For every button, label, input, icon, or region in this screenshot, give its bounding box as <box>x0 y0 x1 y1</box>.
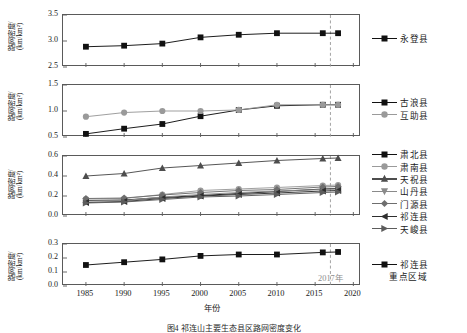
legend-marker-square-icon <box>372 258 397 270</box>
y-axis-title-line2: (km/km²) <box>16 238 24 294</box>
legend-item-肃北县[interactable]: 肃北县 <box>372 148 429 160</box>
y-axis-title-line1: 路网密度/ <box>8 91 16 121</box>
panel-2-y-tick-1: 1.0 <box>36 105 58 114</box>
x-tick-2000: 2000 <box>182 289 218 298</box>
y-axis-title-line1: 路网密度/ <box>8 169 16 199</box>
panel-1-y-axis-title: 路网密度/ (km/km²) <box>8 8 25 64</box>
panel-4-y-tick-3: 0.3 <box>36 238 58 247</box>
panel-2-y-tick-0: 0.5 <box>36 131 58 140</box>
y-axis-title-line2: (km/km²) <box>16 78 24 134</box>
panel-4-y-axis-title: 路网密度/ (km/km²) <box>8 238 25 294</box>
panel-3-y-tick-1: 0.2 <box>36 190 58 199</box>
legend-item-天祝县[interactable]: 天祝县 <box>372 173 429 185</box>
legend-label: 肃南县 <box>400 161 429 173</box>
legend-panel-2: 古浪县互助县 <box>372 96 429 121</box>
legend-marker-circle-icon <box>372 109 397 121</box>
panel-4-series-canvas <box>63 244 361 286</box>
y-axis-title-line2: (km/km²) <box>16 8 24 64</box>
legend-marker-square-icon <box>372 32 397 44</box>
panel-4-y-tick-2: 0.2 <box>36 252 58 261</box>
annotation-2017: 2017年 <box>318 271 343 283</box>
legend-marker-square-icon <box>372 96 397 108</box>
panel-1-plot-area <box>62 14 360 66</box>
y-axis-title-line2: (km/km²) <box>16 156 24 212</box>
x-tick-2015: 2015 <box>296 289 332 298</box>
x-tick-2005: 2005 <box>220 289 256 298</box>
panel-4-y-tick-1: 0.1 <box>36 266 58 275</box>
panel-2-plot-area <box>62 84 360 136</box>
legend-marker-triangle-down-icon <box>372 185 397 197</box>
x-tick-1990: 1990 <box>105 289 141 298</box>
legend-marker-triangle-left-icon <box>372 210 397 222</box>
x-tick-1985: 1985 <box>67 289 103 298</box>
legend-panel-3: 肃北县肃南县天祝县山丹县门源县祁连县天峻县 <box>372 148 429 235</box>
panel-3-plot-area <box>62 155 360 215</box>
legend-item-山丹县[interactable]: 山丹县 <box>372 185 429 197</box>
x-axis-title: 年份 <box>162 301 262 313</box>
panel-1-y-tick-0: 2.5 <box>36 61 58 70</box>
panel-3-y-tick-0: 0.0 <box>36 210 58 219</box>
x-tick-2010: 2010 <box>258 289 294 298</box>
panel-2-y-tick-2: 1.5 <box>36 79 58 88</box>
legend-label: 门源县 <box>400 198 429 210</box>
legend-item-门源县[interactable]: 门源县 <box>372 198 429 210</box>
legend-label: 祁连县 <box>400 210 429 222</box>
panel-2-series-canvas <box>63 85 361 137</box>
legend-label: 永登县 <box>400 32 429 44</box>
x-tick-2020: 2020 <box>334 289 370 298</box>
panel-1-y-tick-2: 3.5 <box>36 9 58 18</box>
y-axis-title-line1: 路网密度/ <box>8 21 16 51</box>
x-tick-1995: 1995 <box>143 289 179 298</box>
legend-item-天峻县[interactable]: 天峻县 <box>372 222 429 234</box>
legend-label: 天峻县 <box>400 223 429 235</box>
panel-3-y-axis-title: 路网密度/ (km/km²) <box>8 156 25 212</box>
legend-label: 肃北县 <box>400 148 429 160</box>
y-axis-title-line1: 路网密度/ <box>8 251 16 281</box>
panel-3-series-canvas <box>63 156 361 216</box>
legend-marker-diamond-icon <box>372 198 397 210</box>
panel-1-series-canvas <box>63 15 361 67</box>
legend-label: 祁连县 <box>400 258 429 270</box>
panel-3-y-tick-2: 0.4 <box>36 170 58 179</box>
legend-item-古浪县[interactable]: 古浪县 <box>372 96 429 108</box>
legend-marker-triangle-up-icon <box>372 173 397 185</box>
panel-4-plot-area <box>62 243 360 285</box>
legend-marker-circle-icon <box>372 161 397 173</box>
legend-item-永登县[interactable]: 永登县 <box>372 32 429 44</box>
legend-item-互助县[interactable]: 互助县 <box>372 108 429 120</box>
legend-sublabel: 重点区域 <box>389 270 429 282</box>
legend-item-祁连县[interactable]: 祁连县 <box>372 210 429 222</box>
panel-1-y-tick-1: 3.0 <box>36 35 58 44</box>
panel-2-y-axis-title: 路网密度/ (km/km²) <box>8 78 25 134</box>
legend-marker-triangle-right-icon <box>372 223 397 235</box>
legend-item-祁连县[interactable]: 祁连县 <box>372 258 429 270</box>
legend-panel-4: 祁连县重点区域 <box>372 258 429 282</box>
legend-item-肃南县[interactable]: 肃南县 <box>372 160 429 172</box>
panel-4-y-tick-0: 0.0 <box>36 280 58 289</box>
legend-label: 天祝县 <box>400 173 429 185</box>
legend-panel-1: 永登县 <box>372 32 429 44</box>
legend-label: 山丹县 <box>400 185 429 197</box>
figure-caption: 图4 祁连山主要生态县区路网密度变化 <box>0 322 467 333</box>
panel-3-y-tick-3: 0.6 <box>36 150 58 159</box>
legend-label: 古浪县 <box>400 96 429 108</box>
legend-marker-square-icon <box>372 148 397 160</box>
legend-label: 互助县 <box>400 109 429 121</box>
